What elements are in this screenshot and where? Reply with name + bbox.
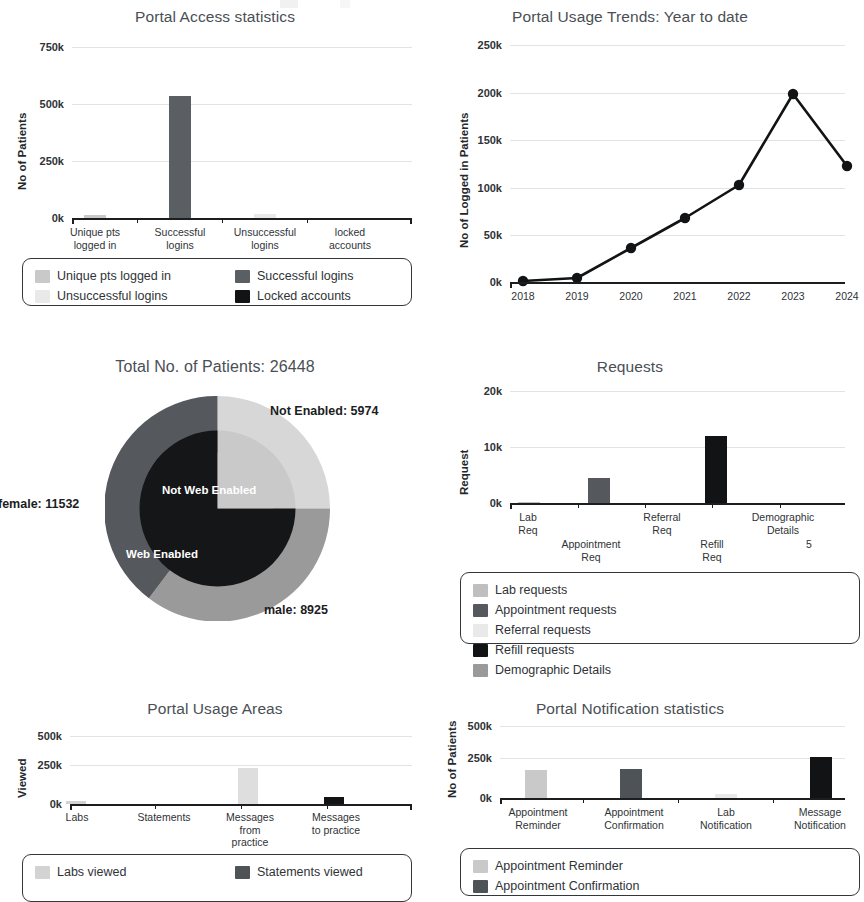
legend-requests: Lab requests Appointment requests Referr… [460,572,860,644]
gridline-10k [510,447,845,448]
bar-successful-logins[interactable] [169,96,191,218]
legend-label-refill-requests: Refill requests [495,640,574,660]
legend-item-appointment-confirmation[interactable]: Appointment Confirmation [473,876,663,896]
y-tick-0k: 0k [452,497,502,509]
bar-appointment-reminder[interactable] [525,770,547,798]
donut-chart-patients[interactable]: Not Web Enabled Web Enabled [105,396,330,621]
legend-item-statements-viewed[interactable]: Statements viewed [235,862,400,882]
legend-label-appointment-reminder: Appointment Reminder [495,856,623,876]
legend-item-appointment-requests[interactable]: Appointment requests [473,600,651,620]
donut-svg[interactable] [105,396,330,621]
donut-label-web-enabled: Web Enabled [126,548,198,560]
legend-item-unique-pts[interactable]: Unique pts logged in [35,266,235,286]
legend-label-appointment-requests: Appointment requests [495,600,617,620]
legend-label-labs-viewed: Labs viewed [57,862,127,882]
x-tick-unsuccessful-logins: Unsuccessful logins [225,226,305,251]
legend-swatch-icon-labs-viewed [35,866,50,879]
x-tickmark-2 [222,218,223,223]
y-tick-0k: 0k [12,212,64,224]
legend-portal-access: Unique pts logged in Successful logins U… [22,258,412,306]
x-tick-statements: Statements [124,811,204,824]
legend-swatch-icon-referral-requests [473,624,488,637]
panel-portal-access: Portal Access statistics No of Patients … [0,0,430,330]
plot-usage-trends: No of Logged in Patients 0k 50k 100k 150… [430,0,845,320]
y-tick-0k: 0k [440,792,492,804]
legend-notifications: Appointment Reminder Appointment Confirm… [460,848,860,896]
legend-item-referral-requests[interactable]: Referral requests [473,620,673,640]
x-tick-appointment-confirmation: Appointment Confirmation [588,806,680,831]
panel-patients-pie: Total No. of Patients: 26448 Not Web Ena… [0,350,430,660]
panel-notifications: Portal Notification statistics No of Pat… [430,670,845,883]
gridline-250k [500,758,845,759]
x-axis-cap-left [70,804,72,810]
gridline-500k [72,104,412,105]
y-tick-500k: 500k [12,98,64,110]
x-tick-2023: 2023 [768,290,818,303]
x-axis-notifications [500,798,845,800]
gridline-250k [72,161,412,162]
legend-swatch-icon-successful-logins [235,270,250,283]
plot-notifications: No of Patients 0k 250k 500k Appointment … [430,670,845,845]
panel-usage-areas: Portal Usage Areas Viewed 0k 250k 500k L… [0,670,430,883]
gridline-750k [72,47,412,48]
y-axis-label-portal-access: No of Patients [16,113,28,190]
x-tick-successful-logins: Successful logins [140,226,220,251]
legend-swatch-icon-appointment-requests [473,604,488,617]
x-axis-cap-left [510,282,512,288]
x-tickmark-2 [645,503,646,508]
bar-messages-to-practice[interactable] [324,797,344,804]
donut-label-not-web-enabled: Not Web Enabled [162,484,256,496]
gridline-500k [500,726,845,727]
bar-appointment-requests[interactable] [588,478,610,503]
y-tick-250k: 250k [440,752,492,764]
legend-item-lab-requests[interactable]: Lab requests [473,580,673,600]
y-tick-250k: 250k [10,759,62,771]
bar-messages-from-practice[interactable] [238,768,258,804]
legend-item-refill-requests[interactable]: Refill requests [473,640,651,660]
legend-item-appointment-reminder[interactable]: Appointment Reminder [473,856,673,876]
x-tick-unique-pts: Unique pts logged in [55,226,135,251]
bar-message-notification[interactable] [810,757,832,798]
bar-appointment-confirmation[interactable] [620,769,642,798]
y-axis-label-requests: Request [458,450,470,495]
x-axis-usage-trends [510,282,845,284]
bar-refill-requests[interactable] [705,436,727,503]
plot-requests: Request 0k 10k 20k Lab Req Referral Req … [430,350,845,565]
annotation-not-enabled: Not Enabled: 5974 [270,404,378,418]
legend-label-appointment-confirmation: Appointment Confirmation [495,876,640,896]
x-tick-2024: 2024 [822,290,864,303]
x-tickmark-1 [137,218,138,223]
y-tick-20k: 20k [452,385,502,397]
legend-swatch-icon-appointment-reminder [473,860,488,873]
legend-item-successful-logins[interactable]: Successful logins [235,266,400,286]
legend-label-locked-accounts: Locked accounts [257,286,351,306]
x-axis-cap-left [72,218,74,224]
x-tick-message-notification: Message Notification [778,806,862,831]
legend-swatch-icon-lab-requests [473,584,488,597]
x-tickmark-3 [712,503,713,508]
x-tickmark-3 [307,218,308,223]
x-tick-messages-from-practice: Messages from practice [212,811,288,849]
x-tick-refill-req: Refill Req [683,538,741,563]
y-tick-250k: 250k [12,155,64,167]
legend-swatch-icon-unsuccessful-logins [35,290,50,303]
x-tick-referral-req: Referral Req [633,511,691,536]
plot-usage-areas: Viewed 0k 250k 500k Labs Statements Mess… [0,670,430,845]
legend-item-labs-viewed[interactable]: Labs viewed [35,862,235,882]
y-tick-0k: 0k [10,798,62,810]
x-tickmark-4 [780,503,781,508]
legend-swatch-icon-locked-accounts [235,290,250,303]
legend-swatch-icon-appointment-confirmation [473,880,488,893]
x-tick-extra-5: 5 [794,538,824,551]
x-tick-appointment-req: Appointment Req [550,538,632,563]
x-axis-cap-right [410,218,412,224]
annotation-female: female: 11532 [0,497,79,511]
legend-item-locked-accounts[interactable]: Locked accounts [235,286,400,306]
x-axis-portal-access [72,218,412,220]
x-tick-2021: 2021 [660,290,710,303]
gridline-500k [70,736,412,737]
legend-label-unique-pts: Unique pts logged in [57,266,171,286]
legend-item-unsuccessful-logins[interactable]: Unsuccessful logins [35,286,235,306]
legend-swatch-icon-refill-requests [473,644,488,657]
line-series-usage-trends[interactable] [430,0,845,320]
